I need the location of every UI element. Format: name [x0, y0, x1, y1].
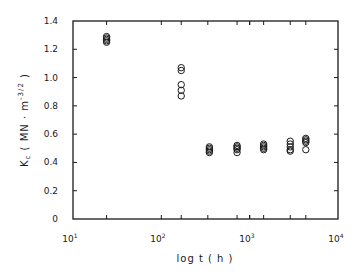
y-tick-label: 1.2 — [44, 44, 58, 54]
y-tick-label: 0.8 — [44, 101, 59, 111]
y-tick-label: 0.6 — [44, 129, 59, 139]
x-axis-tick-labels: 101 102 103 104 — [62, 232, 343, 244]
data-point — [303, 147, 309, 153]
y-tick-label: 0.2 — [44, 186, 58, 196]
x-axis-ticks — [107, 21, 306, 219]
y-tick-label: 0.4 — [44, 157, 59, 167]
x-tick-label: 104 — [328, 232, 343, 244]
y-axis-title: Kc ( MN · m-3/2 ) — [17, 73, 32, 167]
y-tick-label: 1.0 — [44, 73, 59, 83]
y-axis-ticks — [73, 49, 338, 190]
y-tick-label: 1.4 — [44, 16, 59, 26]
x-tick-label: 102 — [150, 232, 165, 244]
scatter-chart: 0 0.2 0.4 0.6 0.8 1.0 1.2 1.4 101 102 10… — [0, 0, 364, 276]
x-axis-title: log t ( h ) — [176, 253, 233, 264]
plot-frame — [73, 21, 338, 219]
x-tick-label: 101 — [62, 232, 77, 244]
y-axis-tick-labels: 0 0.2 0.4 0.6 0.8 1.0 1.2 1.4 — [44, 16, 59, 224]
y-tick-label: 0 — [52, 214, 58, 224]
data-points — [103, 33, 309, 155]
x-tick-label: 103 — [239, 232, 254, 244]
